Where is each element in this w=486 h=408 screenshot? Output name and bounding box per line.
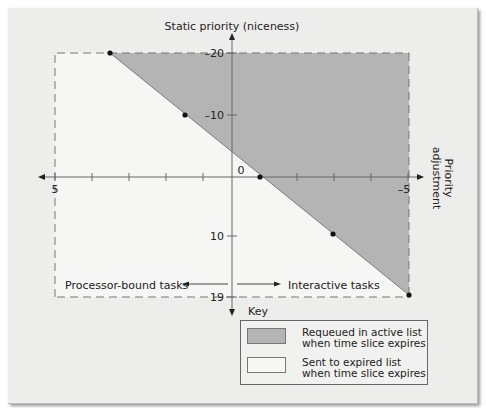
key-item-label: when time slice expires <box>302 337 426 349</box>
y-tick-label: –20 <box>205 47 225 60</box>
y-tick-label: –10 <box>205 109 225 122</box>
data-point <box>257 174 262 179</box>
processor-bound-label: Processor-bound tasks <box>65 279 189 292</box>
key-swatch-active <box>248 329 286 344</box>
x-axis-left-arrow-icon <box>38 174 45 180</box>
y-axis-title: Static priority (niceness) <box>165 20 300 33</box>
key-item-label: when time slice expires <box>302 367 426 379</box>
key-swatch-expired <box>248 358 286 373</box>
origin-label: 0 <box>238 164 245 177</box>
x-tick-label-left: 5 <box>52 183 59 196</box>
data-point <box>330 231 335 236</box>
x-axis-title: Priority adjustment <box>430 147 455 210</box>
data-point <box>107 50 112 55</box>
x-axis-right-arrow-icon <box>417 174 424 180</box>
x-tick-label-right: –5 <box>398 183 411 196</box>
data-point <box>182 112 187 117</box>
interactive-label: Interactive tasks <box>288 279 380 292</box>
data-point <box>406 292 411 297</box>
key-title: Key <box>248 305 268 318</box>
svg-text:adjustment: adjustment <box>430 147 443 210</box>
y-tick-label: 10 <box>210 230 224 243</box>
y-axis-down-arrow-icon <box>229 309 235 316</box>
y-axis-up-arrow-icon <box>229 33 235 40</box>
y-tick-label: 19 <box>210 291 224 304</box>
priority-diagram: Static priority (niceness) –20 –10 0 10 … <box>0 0 486 408</box>
